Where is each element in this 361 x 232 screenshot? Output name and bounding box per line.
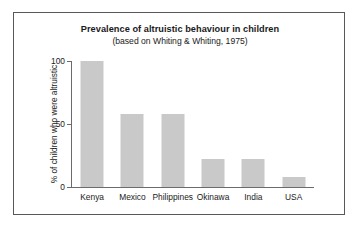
plot-area: 0 50 100 Kenya Mexico Philippines — [71, 61, 314, 187]
bar — [121, 114, 144, 187]
y-tick-mark — [67, 124, 71, 125]
x-tick-label: India — [244, 192, 262, 202]
chart-subtitle: (based on Whiting & Whiting, 1975) — [14, 35, 346, 47]
x-tick-label: Philippines — [152, 192, 193, 202]
bar — [242, 159, 265, 187]
bar — [161, 114, 184, 187]
bar-group-3: Okinawa — [193, 61, 233, 187]
page-title: Prevalence of altruistic behaviour in ch… — [14, 23, 346, 35]
y-tick-label: 50 — [56, 119, 65, 129]
bar-group-4: India — [233, 61, 273, 187]
y-tick-mark — [67, 61, 71, 62]
y-tick-0: 0 — [71, 187, 72, 188]
bars-layer: Kenya Mexico Philippines Okinawa India U… — [72, 61, 314, 187]
y-tick-label: 100 — [51, 56, 65, 66]
chart-frame: Prevalence of altruistic behaviour in ch… — [13, 12, 345, 215]
y-tick-mark — [67, 187, 71, 188]
bar — [282, 177, 305, 187]
x-tick-label: Okinawa — [197, 192, 230, 202]
bar-group-1: Mexico — [112, 61, 152, 187]
x-tick-label: Kenya — [80, 192, 104, 202]
chart-title-block: Prevalence of altruistic behaviour in ch… — [14, 23, 346, 47]
bar — [202, 159, 225, 187]
x-axis-line — [71, 187, 314, 188]
x-tick-label: USA — [285, 192, 302, 202]
bar — [81, 61, 104, 187]
x-tick-label: Mexico — [119, 192, 146, 202]
bar-group-5: USA — [274, 61, 314, 187]
bar-group-0: Kenya — [72, 61, 112, 187]
y-tick-label: 0 — [60, 182, 65, 192]
bar-group-2: Philippines — [153, 61, 193, 187]
